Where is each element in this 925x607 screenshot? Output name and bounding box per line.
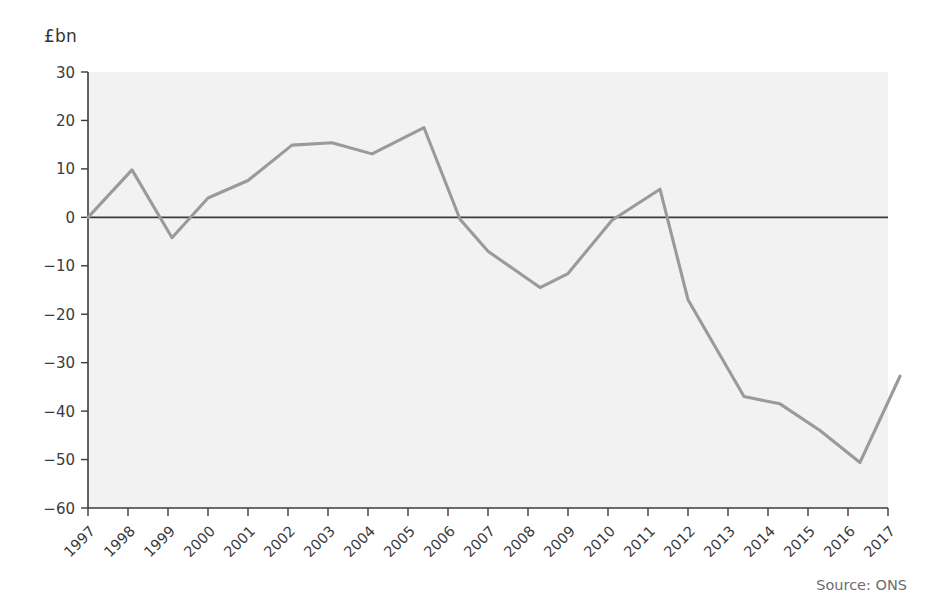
- x-tick-label: 2010: [581, 523, 618, 560]
- x-tick-label: 2008: [501, 523, 538, 560]
- x-tick-label: 2002: [261, 523, 298, 560]
- y-tick-label: −20: [43, 306, 75, 324]
- y-tick-label: −60: [43, 500, 75, 518]
- x-tick-label: 2003: [301, 523, 338, 560]
- y-tick-label: 10: [56, 160, 75, 178]
- source-note: Source: ONS: [816, 577, 907, 593]
- y-tick-label: −50: [43, 451, 75, 469]
- chart-page: £bn 3020100−10−20−30−40−50−60 1997199819…: [0, 0, 925, 607]
- x-tick-label: 1998: [101, 523, 138, 560]
- x-tick-label: 2015: [781, 523, 818, 560]
- x-tick-label: 2004: [341, 523, 378, 560]
- x-tick-label: 2014: [741, 523, 778, 560]
- x-tick-label: 2000: [181, 523, 218, 560]
- x-tick-label: 2016: [821, 523, 858, 560]
- x-tick-label: 2001: [221, 523, 258, 560]
- x-tick-label: 2007: [461, 523, 498, 560]
- x-tick-label: 2009: [541, 523, 578, 560]
- y-tick-label: 30: [56, 64, 75, 82]
- x-axis-ticks: 1997199819992000200120022003200420052006…: [61, 508, 898, 560]
- y-tick-label: 20: [56, 112, 75, 130]
- x-tick-label: 1997: [61, 523, 98, 560]
- y-tick-label: −40: [43, 403, 75, 421]
- x-tick-label: 2012: [661, 523, 698, 560]
- x-tick-label: 2017: [861, 523, 898, 560]
- y-axis-ticks: 3020100−10−20−30−40−50−60: [43, 64, 88, 518]
- y-tick-label: −30: [43, 354, 75, 372]
- x-tick-label: 2005: [381, 523, 418, 560]
- line-chart: 3020100−10−20−30−40−50−60 19971998199920…: [0, 0, 925, 607]
- x-tick-label: 2011: [621, 523, 658, 560]
- x-tick-label: 1999: [141, 523, 178, 560]
- plot-background: [88, 72, 888, 508]
- x-tick-label: 2013: [701, 523, 738, 560]
- y-tick-label: −10: [43, 257, 75, 275]
- x-tick-label: 2006: [421, 523, 458, 560]
- y-tick-label: 0: [65, 209, 75, 227]
